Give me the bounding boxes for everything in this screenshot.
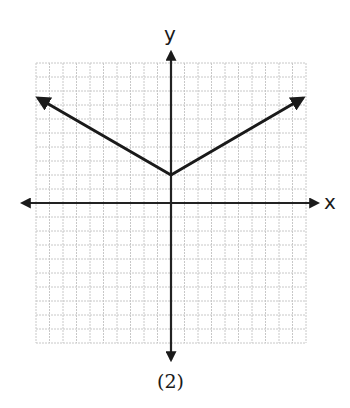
coordinate-plane [0,0,350,408]
x-axis-label: x [324,190,336,214]
figure-caption: (2) [157,370,184,392]
y-axis-label: y [164,22,176,46]
